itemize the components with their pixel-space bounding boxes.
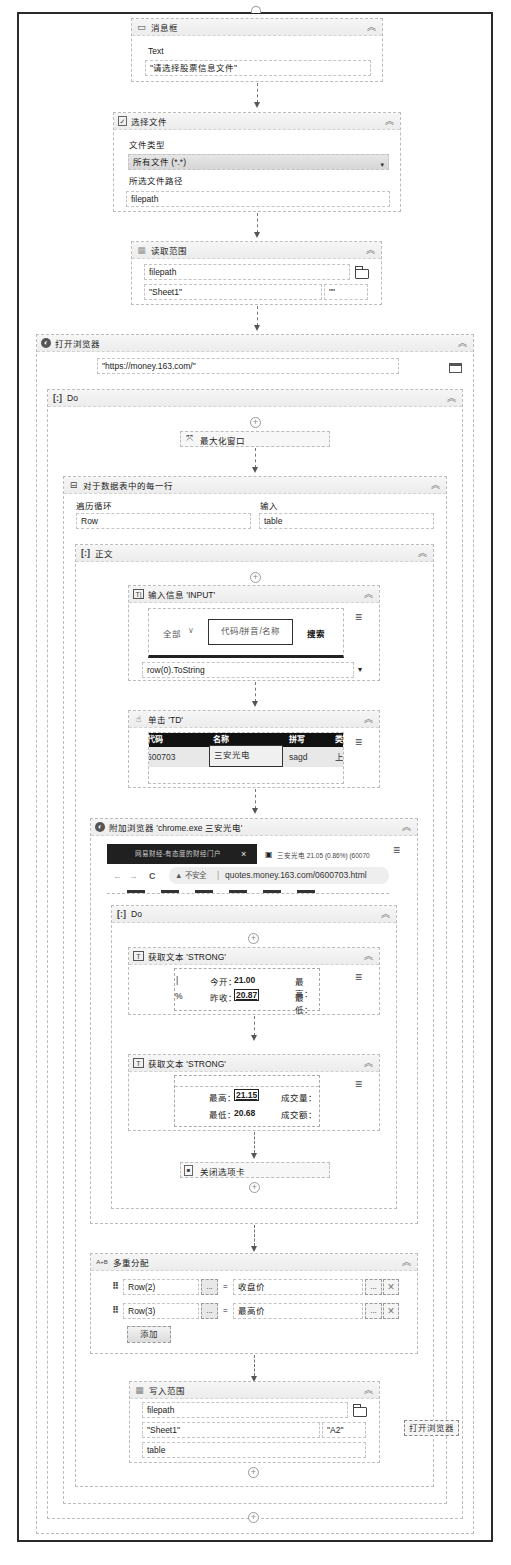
iterate-variable-input[interactable]: Row: [76, 513, 251, 529]
flow-connector: [254, 1225, 255, 1246]
activity-type-into[interactable]: T| 输入信息 'INPUT' ︽ 全部 ∨ 代码/拼音/名称 搜索 ≡ row…: [128, 585, 380, 681]
remove-row-button[interactable]: ×: [383, 1303, 399, 1319]
activity-header[interactable]: T 获取文本 'STRONG': [129, 948, 379, 965]
folder-icon[interactable]: [353, 1407, 367, 1417]
collapse-icon[interactable]: ︽: [367, 22, 376, 32]
drag-handle-icon[interactable]: ⠿: [112, 1305, 119, 1315]
options-menu-icon[interactable]: ≡: [355, 1079, 366, 1089]
expression-editor-button[interactable]: ...: [201, 1303, 218, 1319]
sheet-name-input[interactable]: "Sheet1": [144, 284, 322, 300]
activity-select-file[interactable]: ✓ 选择文件 ︽ 文件类型 所有文件 (*.*) ▾ 所选文件路径 filepa…: [113, 112, 401, 212]
collapse-icon[interactable]: ︽: [364, 1385, 373, 1395]
url-input[interactable]: "https://money.163.com/": [97, 358, 399, 374]
activity-header[interactable]: ☝ 单击 'TD': [129, 711, 379, 728]
collapse-icon[interactable]: ︽: [385, 116, 394, 126]
activity-header[interactable]: ◐ 附加浏览器 'chrome.exe 三安光电': [91, 819, 417, 836]
iterate-label: 遍历循环: [76, 499, 112, 511]
activity-title: 获取文本 'STRONG': [148, 950, 226, 962]
activity-header[interactable]: A+B 多重分配: [91, 1254, 417, 1271]
preview-label: 成交量：: [281, 1091, 317, 1103]
assign-to-input[interactable]: Row(3): [123, 1303, 199, 1319]
add-activity-button[interactable]: +: [248, 1512, 259, 1523]
collapse-icon[interactable]: ︽: [458, 338, 467, 348]
add-activity-button[interactable]: +: [250, 417, 261, 428]
add-activity-button[interactable]: +: [248, 933, 259, 944]
activity-header[interactable]: T 获取文本 'STRONG': [129, 1055, 379, 1072]
activity-read-range[interactable]: ▦ 读取范围 ︽ filepath "Sheet1" "": [131, 241, 382, 305]
collapse-icon[interactable]: ︽: [366, 245, 375, 255]
activity-header[interactable]: [:] Do: [112, 906, 396, 923]
activity-message-box[interactable]: ▭ 消息框 ︽ Text "请选择股票信息文件": [131, 18, 383, 82]
activity-header[interactable]: ▦ 写入范围: [130, 1382, 379, 1399]
collapse-icon[interactable]: ︽: [431, 480, 440, 490]
assign-value-input[interactable]: 最高价: [233, 1303, 363, 1319]
selected-path-label: 所选文件路径: [129, 174, 183, 186]
activity-get-text[interactable]: T 获取文本 'STRONG' ︽ | 今开： 21.00 最高： % 昨收： …: [128, 947, 380, 1015]
activity-header[interactable]: [:] Do: [48, 390, 462, 407]
element-screenshot: | 今开： 21.00 最高： % 昨收： 20.87 最低：: [174, 968, 320, 1011]
preview-value: 20.68: [234, 1108, 255, 1118]
activity-header[interactable]: [:] 正文: [76, 545, 433, 562]
dropdown-icon[interactable]: ▾: [358, 665, 362, 674]
header-cell: 类: [335, 733, 343, 746]
options-menu-icon[interactable]: ≡: [355, 737, 366, 747]
activity-header[interactable]: ✓ 选择文件: [114, 113, 400, 130]
preview-dropdown-text: 全部: [163, 627, 181, 639]
activity-header[interactable]: ◐ 打开浏览器: [37, 335, 473, 352]
collapse-icon[interactable]: ︽: [364, 714, 373, 724]
workbook-path-input[interactable]: filepath: [142, 1402, 348, 1418]
collapse-icon[interactable]: ︽: [402, 822, 411, 832]
collapse-icon[interactable]: ︽: [364, 951, 373, 961]
expression-editor-button[interactable]: ...: [365, 1303, 382, 1319]
text-label: Text: [148, 46, 164, 56]
activity-write-range[interactable]: ▦ 写入范围 ︽ filepath "Sheet1" "A2" table: [129, 1381, 380, 1463]
file-type-label: 文件类型: [129, 138, 165, 150]
text-input[interactable]: row(0).ToString: [142, 662, 354, 678]
activity-header[interactable]: T| 输入信息 'INPUT': [129, 586, 379, 603]
collapse-icon[interactable]: ︽: [364, 589, 373, 599]
activity-get-text[interactable]: T 获取文本 'STRONG' ︽ 最高： 21.15 成交量： 最低： 20.…: [128, 1054, 380, 1131]
options-menu-icon[interactable]: ≡: [355, 612, 366, 622]
options-menu-icon[interactable]: ≡: [355, 972, 366, 982]
assign-to-input[interactable]: Row(2): [123, 1279, 199, 1295]
activity-title: 读取范围: [151, 244, 187, 256]
options-menu-icon[interactable]: ≡: [393, 845, 404, 855]
activity-click[interactable]: ☝ 单击 'TD' ︽ 代码 名称 拼写 类 600703 三安光电 sagd …: [128, 710, 380, 788]
datatable-input[interactable]: table: [259, 513, 434, 529]
collapse-icon[interactable]: ︽: [447, 393, 456, 403]
expression-editor-button[interactable]: ...: [365, 1279, 382, 1295]
start-cell-input[interactable]: "A2": [322, 1422, 366, 1438]
add-activity-button[interactable]: +: [248, 1467, 259, 1478]
activity-multiple-assign[interactable]: A+B 多重分配 ︽ ⠿ Row(2) ... = 收盘价 ... × ⠿ Ro…: [90, 1253, 418, 1354]
preview-table-row: 600703 三安光电 sagd 上: [149, 747, 344, 767]
file-type-dropdown[interactable]: 所有文件 (*.*) ▾: [128, 154, 389, 170]
selected-path-input[interactable]: filepath: [126, 191, 390, 207]
activity-header[interactable]: ⊟ 对于数据表中的每一行: [64, 477, 446, 494]
activity-header[interactable]: ▭ 消息框: [132, 19, 382, 36]
remove-row-button[interactable]: ×: [383, 1279, 399, 1295]
activity-close-tab[interactable]: ■ 关闭选项卡: [180, 1162, 330, 1178]
add-assignment-button[interactable]: 添加: [127, 1326, 171, 1343]
drag-handle-icon[interactable]: ⠿: [112, 1281, 119, 1291]
activity-title: 打开浏览器: [55, 337, 100, 349]
collapse-icon[interactable]: ︽: [418, 548, 427, 558]
add-activity-button[interactable]: +: [250, 572, 261, 583]
assign-value-input[interactable]: 收盘价: [233, 1279, 363, 1295]
activity-header[interactable]: ▦ 读取范围: [132, 242, 381, 259]
sheet-name-input[interactable]: "Sheet1": [142, 1422, 320, 1438]
expression-editor-button[interactable]: ...: [201, 1279, 218, 1295]
row-cell: 600703: [148, 747, 175, 767]
collapse-icon[interactable]: ︽: [381, 909, 390, 919]
add-activity-button[interactable]: +: [249, 1182, 260, 1193]
insecure-warning: ▲ 不安全: [175, 867, 206, 884]
text-input[interactable]: "请选择股票信息文件": [145, 60, 371, 76]
workbook-path-input[interactable]: filepath: [144, 264, 350, 280]
folder-icon[interactable]: [355, 269, 369, 279]
collapse-icon[interactable]: ︽: [402, 1257, 411, 1267]
datatable-input[interactable]: table: [142, 1442, 366, 1458]
activity-maximize-window[interactable]: ⤧ 最大化窗口: [180, 431, 330, 447]
preview-label: 最低：: [295, 991, 319, 1015]
collapse-icon[interactable]: ︽: [364, 1058, 373, 1068]
range-input[interactable]: "": [324, 284, 368, 300]
open-browser-window-icon[interactable]: [449, 363, 462, 373]
